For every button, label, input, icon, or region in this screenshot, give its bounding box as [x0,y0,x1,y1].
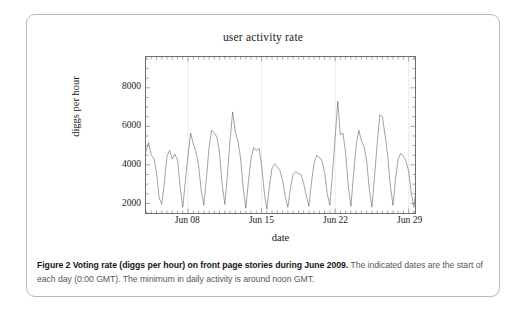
figure-card: user activity rate diggs per hour 200040… [26,14,500,297]
y-axis-label: diggs per hour [70,47,81,167]
x-tick-label: Jun 15 [236,216,286,226]
y-tick-label: 6000 [107,121,141,131]
x-tick-label: Jun 08 [162,216,212,226]
chart-title: user activity rate [27,31,499,43]
activity-line-chart [146,57,415,213]
plot-region: user activity rate diggs per hour 200040… [27,15,499,253]
y-tick-label: 2000 [107,199,141,209]
x-axis-ticks: Jun 08Jun 15Jun 22Jun 29 [145,216,416,232]
x-tick-label: Jun 22 [311,216,361,226]
plot-axes-frame [145,56,416,214]
figure-screenshot: user activity rate diggs per hour 200040… [0,0,525,310]
y-tick-label: 4000 [107,160,141,170]
y-tick-label: 8000 [107,82,141,92]
x-axis-label: date [145,232,416,243]
x-tick-label: Jun 29 [385,216,435,226]
y-axis-ticks: 2000400060008000 [105,56,141,214]
axis-tick-marks [146,57,415,213]
caption-bold-lead: Figure 2 Voting rate (diggs per hour) on… [37,260,348,270]
activity-series-line [146,59,415,209]
figure-caption: Figure 2 Voting rate (diggs per hour) on… [37,259,485,286]
vertical-gridlines [188,57,409,213]
